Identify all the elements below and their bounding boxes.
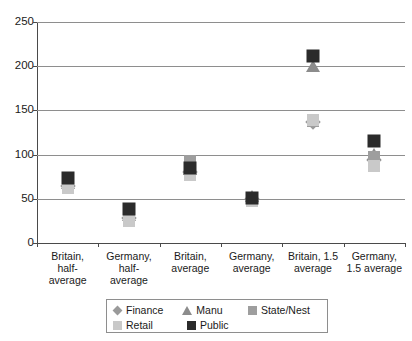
x-tick-mark-3 xyxy=(221,243,222,247)
data-point xyxy=(245,191,258,204)
legend-row-bottom: RetailPublic xyxy=(113,318,321,332)
x-tick-mark-1 xyxy=(98,243,99,247)
x-axis-label-line: 1.5 average xyxy=(344,262,405,274)
data-point xyxy=(307,50,320,63)
square-swatch-icon xyxy=(187,321,196,330)
legend-label: Manu xyxy=(196,305,222,316)
x-axis-label-0: Britain,half-average xyxy=(37,250,98,287)
x-axis-label-line: Germany, xyxy=(344,250,405,262)
x-tick-mark-5 xyxy=(344,243,345,247)
x-axis-label-1: Germany,half-average xyxy=(98,250,159,287)
legend-label: Retail xyxy=(126,320,153,331)
legend-item-state-nest[interactable]: State/Nest xyxy=(248,305,321,316)
gridline-100 xyxy=(37,155,405,156)
square-swatch-icon xyxy=(248,306,257,315)
x-axis-label-line: average xyxy=(160,262,221,274)
data-point xyxy=(307,114,319,126)
x-axis-label-line: average xyxy=(221,262,282,274)
data-point xyxy=(123,215,135,227)
legend-row-top: FinanceManuState/Nest xyxy=(113,303,321,317)
gridline-250 xyxy=(37,22,405,23)
data-point xyxy=(184,161,197,174)
legend-item-finance[interactable]: Finance xyxy=(113,305,182,316)
x-axis-label-line: half- xyxy=(37,262,98,274)
y-tick-label-150: 150 xyxy=(4,104,34,116)
gridline-50 xyxy=(37,199,405,200)
legend-label: Public xyxy=(200,320,229,331)
x-axis-label-line: average xyxy=(98,274,159,286)
x-axis-label-line: Germany, xyxy=(221,250,282,262)
x-tick-mark-4 xyxy=(282,243,283,247)
data-point xyxy=(123,203,136,216)
data-point xyxy=(61,171,74,184)
x-axis-label-line: Britain, xyxy=(37,250,98,262)
y-axis-labels: 250200150100500 xyxy=(0,22,34,243)
x-axis-label-2: Britain,average xyxy=(160,250,221,274)
data-point xyxy=(368,160,380,172)
gridline-200 xyxy=(37,66,405,67)
x-tick-mark-6 xyxy=(405,243,406,247)
x-axis-label-5: Germany,1.5 average xyxy=(344,250,405,274)
x-axis-label-4: Britain, 1.5average xyxy=(282,250,343,274)
x-axis-label-line: Germany, xyxy=(98,250,159,262)
legend-item-public[interactable]: Public xyxy=(187,320,257,331)
plot-area xyxy=(37,22,405,243)
y-tick-label-0: 0 xyxy=(4,237,34,249)
y-tick-label-250: 250 xyxy=(4,16,34,28)
x-axis-label-line: Britain, 1.5 xyxy=(282,250,343,262)
x-axis-label-3: Germany,average xyxy=(221,250,282,274)
x-axis-label-line: half- xyxy=(98,262,159,274)
data-point xyxy=(368,135,381,148)
gridline-150 xyxy=(37,110,405,111)
chart-container: 250200150100500 Britain,half-averageGerm… xyxy=(0,0,412,341)
x-axis-label-line: average xyxy=(282,262,343,274)
legend-label: Finance xyxy=(126,305,163,316)
x-tick-mark-0 xyxy=(37,243,38,247)
legend-label: State/Nest xyxy=(261,305,310,316)
y-tick-label-50: 50 xyxy=(4,193,34,205)
diamond-swatch-icon xyxy=(113,305,123,315)
triangle-swatch-icon xyxy=(182,306,192,315)
y-tick-label-100: 100 xyxy=(4,149,34,161)
chart-legend: FinanceManuState/Nest RetailPublic xyxy=(106,299,328,333)
y-tick-label-200: 200 xyxy=(4,60,34,72)
legend-item-retail[interactable]: Retail xyxy=(113,320,187,331)
square-swatch-icon xyxy=(113,321,122,330)
x-tick-mark-2 xyxy=(160,243,161,247)
x-axis-label-line: average xyxy=(37,274,98,286)
legend-item-manu[interactable]: Manu xyxy=(182,305,248,316)
x-axis-label-line: Britain, xyxy=(160,250,221,262)
